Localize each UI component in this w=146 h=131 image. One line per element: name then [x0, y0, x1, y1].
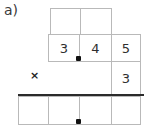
worksheet-panel: a) 3 4 5 3 × — [0, 0, 146, 131]
grid-cell-row4-col4[interactable] — [111, 96, 141, 125]
decimal-point-multiplicand-icon — [76, 56, 81, 61]
grid-cell-row1-col2[interactable] — [80, 8, 112, 35]
cell-value: 4 — [80, 42, 111, 55]
grid-cell-row1-col1[interactable] — [50, 8, 81, 35]
cell-value: 5 — [112, 42, 140, 55]
multiplication-operator: × — [30, 70, 39, 81]
grid-cell-row3-col4[interactable]: 3 — [111, 61, 141, 95]
part-label: a) — [4, 3, 18, 17]
grid-cell-row4-col3[interactable] — [79, 96, 112, 125]
cell-value: 3 — [49, 42, 79, 55]
grid-cell-row2-col2[interactable]: 4 — [79, 34, 112, 62]
grid-cell-row4-col1[interactable] — [18, 96, 49, 125]
grid-cell-row2-col3[interactable]: 5 — [111, 34, 141, 62]
decimal-point-product-icon — [76, 119, 81, 124]
cell-value: 3 — [112, 72, 140, 85]
